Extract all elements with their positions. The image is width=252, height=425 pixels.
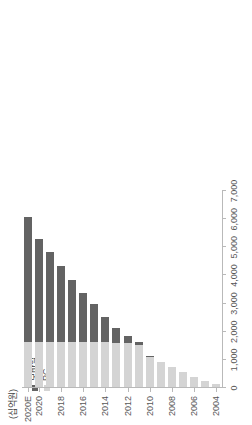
bar-segment-pc[interactable] (79, 342, 87, 387)
category-axis-tick-label: 2006 (189, 396, 199, 416)
bar-group[interactable] (35, 239, 43, 387)
value-axis-tick-label: 0 (229, 385, 239, 390)
bar-segment-pc[interactable] (124, 343, 132, 387)
value-axis-tick (222, 303, 226, 304)
bar-segment-mobile[interactable] (101, 317, 109, 342)
category-axis-tick (83, 388, 84, 392)
bar-group[interactable] (201, 381, 209, 387)
bar-segment-pc[interactable] (157, 362, 165, 387)
value-axis-tick (222, 218, 226, 219)
category-axis-tick-label: 2008 (167, 396, 177, 416)
bar-segment-pc[interactable] (57, 342, 65, 387)
value-axis-tick-label: 1,000 (229, 349, 239, 372)
bar-segment-pc[interactable] (101, 342, 109, 387)
bar-segment-mobile[interactable] (112, 328, 120, 342)
bar-chart-figure: (십억원) 모바일PC 01,0002,0003,0004,0005,0006,… (0, 0, 252, 425)
category-axis-tick-label: 2012 (123, 396, 133, 416)
bar-segment-pc[interactable] (24, 342, 32, 387)
bar-segment-pc[interactable] (168, 367, 176, 387)
bar-group[interactable] (24, 217, 32, 387)
bar-segment-mobile[interactable] (79, 293, 87, 342)
value-axis-tick-label: 7,000 (229, 180, 239, 203)
category-axis-tick (39, 388, 40, 392)
bar-segment-mobile[interactable] (24, 217, 32, 342)
bar-group[interactable] (79, 293, 87, 387)
bar-segment-pc[interactable] (112, 343, 120, 387)
category-axis-tick-label: 2010 (145, 396, 155, 416)
value-axis-tick-label: 6,000 (229, 208, 239, 231)
value-axis-tick-label: 4,000 (229, 264, 239, 287)
plot-area: 01,0002,0003,0004,0005,0006,0007,0002004… (22, 191, 222, 388)
bar-segment-mobile[interactable] (46, 253, 54, 342)
value-axis-tick-label: 3,000 (229, 292, 239, 315)
bar-segment-pc[interactable] (190, 377, 198, 387)
bar-group[interactable] (190, 377, 198, 387)
bar-segment-pc[interactable] (135, 345, 143, 387)
value-axis-tick-label: 5,000 (229, 236, 239, 259)
category-axis-tick (28, 388, 29, 392)
value-axis-tick (222, 387, 226, 388)
bar-segment-pc[interactable] (68, 342, 76, 387)
category-axis-tick (194, 388, 195, 392)
bar-group[interactable] (112, 328, 120, 387)
bar-group[interactable] (146, 356, 154, 387)
category-axis-tick-label: 2016 (78, 396, 88, 416)
value-axis-tick (222, 331, 226, 332)
bar-segment-mobile[interactable] (35, 239, 43, 342)
category-axis-line (22, 387, 222, 388)
bar-group[interactable] (124, 336, 132, 387)
category-axis-tick-label: 2020 (34, 396, 44, 416)
bar-segment-mobile[interactable] (146, 356, 154, 357)
bar-group[interactable] (46, 252, 54, 387)
bar-segment-mobile[interactable] (57, 266, 65, 342)
category-axis-tick (61, 388, 62, 392)
bar-group[interactable] (157, 362, 165, 387)
bar-segment-pc[interactable] (46, 342, 54, 387)
category-axis-tick (150, 388, 151, 392)
category-axis-tick-label: 2020E (23, 396, 33, 422)
category-axis-tick (216, 388, 217, 392)
bar-group[interactable] (212, 384, 220, 387)
bar-group[interactable] (179, 372, 187, 387)
bar-segment-mobile[interactable] (124, 336, 132, 342)
value-axis-tick (222, 359, 226, 360)
category-axis-tick-label: 2014 (100, 396, 110, 416)
bar-group[interactable] (101, 317, 109, 387)
bar-group[interactable] (90, 304, 98, 387)
axis-unit-caption: (십억원) (6, 389, 19, 419)
bar-segment-pc[interactable] (35, 342, 43, 387)
bar-group[interactable] (57, 266, 65, 387)
bar-group[interactable] (168, 367, 176, 387)
bar-segment-pc[interactable] (212, 384, 220, 387)
bar-segment-pc[interactable] (179, 372, 187, 387)
category-axis-tick (128, 388, 129, 392)
category-axis-tick (172, 388, 173, 392)
bar-group[interactable] (68, 280, 76, 387)
value-axis-tick-label: 2,000 (229, 320, 239, 343)
bar-segment-mobile[interactable] (90, 304, 98, 342)
bar-segment-pc[interactable] (146, 357, 154, 387)
value-axis-tick (222, 274, 226, 275)
bar-group[interactable] (135, 342, 143, 387)
bar-segment-pc[interactable] (201, 381, 209, 387)
category-axis-tick (105, 388, 106, 392)
bar-segment-mobile[interactable] (68, 280, 76, 342)
value-axis-tick (222, 246, 226, 247)
chart-canvas: (십억원) 모바일PC 01,0002,0003,0004,0005,0006,… (0, 0, 252, 425)
bar-segment-pc[interactable] (90, 342, 98, 387)
value-axis-tick (222, 190, 226, 191)
category-axis-tick-label: 2004 (211, 396, 221, 416)
category-axis-tick-label: 2018 (56, 396, 66, 416)
bar-segment-mobile[interactable] (135, 342, 143, 345)
